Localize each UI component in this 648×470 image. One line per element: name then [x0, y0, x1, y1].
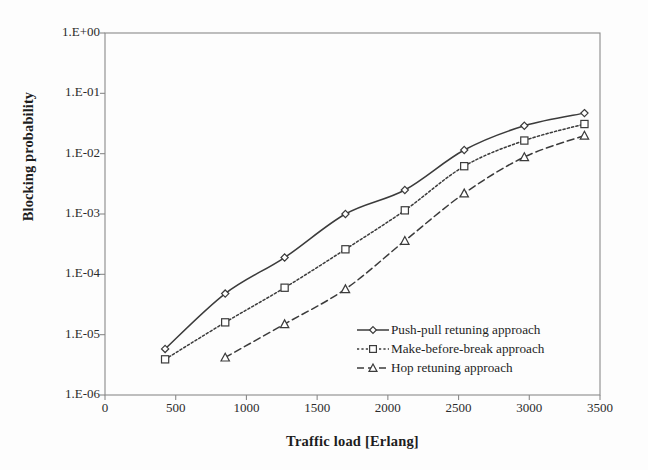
data-point-marker [401, 207, 408, 214]
data-point-marker [521, 122, 528, 129]
data-point-marker [342, 246, 349, 253]
y-tick-label: 1.E-04 [30, 265, 100, 281]
y-tick-label: 1.E-01 [30, 84, 100, 100]
data-point-marker [341, 285, 349, 293]
data-point-marker [401, 186, 408, 193]
x-tick-label: 3000 [499, 400, 559, 416]
data-point-marker [460, 189, 468, 197]
legend-item[interactable]: Push-pull retuning approach [356, 320, 588, 339]
y-tick-label: 1.E+00 [30, 24, 100, 40]
legend-label: Push-pull retuning approach [390, 322, 540, 338]
legend-label: Hop retuning approach [390, 360, 513, 376]
chart-figure: Blocking probability 1.E+001.E-011.E-021… [0, 0, 648, 470]
x-tick-label: 2500 [429, 400, 489, 416]
data-point-marker [461, 146, 468, 153]
y-tick-label: 1.E-03 [30, 205, 100, 221]
square-marker-icon [356, 341, 390, 357]
y-tick-label: 1.E-02 [30, 145, 100, 161]
data-point-marker [222, 319, 229, 326]
x-tick-label: 2000 [358, 400, 418, 416]
data-point-marker [521, 137, 528, 144]
diamond-marker-icon [356, 322, 390, 338]
data-point-marker [401, 237, 409, 245]
data-point-marker [581, 110, 588, 117]
legend-item[interactable]: Make-before-break approach [356, 339, 588, 358]
legend-item[interactable]: Hop retuning approach [356, 358, 588, 377]
data-point-marker [281, 284, 288, 291]
y-tick-label: 1.E-05 [30, 326, 100, 342]
x-tick-label: 1500 [287, 400, 347, 416]
x-tick-label: 0 [75, 400, 135, 416]
data-point-marker [461, 163, 468, 170]
data-point-marker [581, 120, 588, 127]
data-point-marker [162, 356, 169, 363]
legend-label: Make-before-break approach [390, 341, 544, 357]
data-point-marker [520, 153, 528, 161]
x-axis-title: Traffic load [Erlang] [105, 433, 600, 450]
data-point-marker [580, 131, 588, 139]
data-point-marker [280, 320, 288, 328]
data-point-marker [221, 353, 229, 361]
chart-legend: Push-pull retuning approachMake-before-b… [356, 320, 588, 377]
data-point-marker [342, 210, 349, 217]
x-tick-label: 1000 [216, 400, 276, 416]
triangle-marker-icon [356, 360, 390, 376]
x-tick-label: 3500 [570, 400, 630, 416]
x-tick-label: 500 [146, 400, 206, 416]
